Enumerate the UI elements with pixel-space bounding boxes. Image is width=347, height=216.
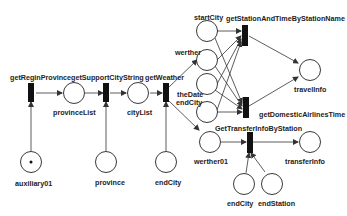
petri-net-diagram: getReginProvince getSupportCityString ge… [0,0,347,216]
label-werther01: werther01 [193,157,228,166]
transition-getDomesticAirlinesTime[interactable] [243,97,249,118]
label-cityList: cityList [127,108,153,117]
place-startCity[interactable] [197,21,218,42]
label-endStation: endStation [258,199,295,208]
label-province: province [95,178,125,187]
label-transferInfo: transferInfo [285,157,326,166]
token-icon [30,161,33,164]
place-werther01[interactable] [200,132,221,153]
label-getWeather: getWeather [145,73,184,82]
place-endCity-1[interactable] [156,152,177,173]
place-endStation[interactable] [262,174,283,195]
transition-GetTransferInfoByStation[interactable] [247,132,253,153]
place-cityList[interactable] [128,83,149,104]
label-GetTransferInfoByStation: GetTransferInfoByStation [215,124,302,133]
labels: getReginProvince getSupportCityString ge… [10,13,345,208]
label-getReginProvince: getReginProvince [10,73,71,82]
label-getStationAndTimeByStationName: getStationAndTimeByStationName [226,14,345,23]
place-endCity-3[interactable] [234,174,255,195]
place-travelInfo[interactable] [300,60,321,81]
transition-getStationAndTimeByStationName[interactable] [242,25,248,46]
label-getSupportCityString: getSupportCityString [71,73,144,82]
transition-getWeather[interactable] [163,83,169,102]
label-startCity: startCity [194,13,223,22]
label-provinceList: provinceList [53,108,96,117]
place-transferInfo[interactable] [300,132,321,153]
label-werther: werther [174,48,201,57]
label-endCity-1: endCity [155,178,181,187]
transition-getSupportCityString[interactable] [103,83,109,102]
label-auxiliary01: auxiliary01 [15,179,52,188]
label-endCity-2: endCity [176,98,202,107]
place-province[interactable] [96,152,117,173]
label-endCity-3: endCity [227,199,253,208]
label-getDomesticAirlinesTime: getDomesticAirlinesTime [259,110,345,119]
place-provinceList[interactable] [64,83,85,104]
label-travelInfo: travelInfo [294,85,327,94]
transition-getReginProvince[interactable] [28,83,34,102]
